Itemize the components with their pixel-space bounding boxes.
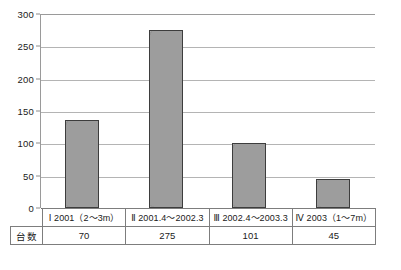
table-row-categories: Ⅰ 2001（2～3m） Ⅱ 2001.4～2002.3 Ⅲ 2002.4～20… xyxy=(11,209,376,227)
bar-category-3 xyxy=(232,143,266,208)
bar-slot-1 xyxy=(40,14,124,208)
bar-slot-2 xyxy=(124,14,208,208)
data-table: Ⅰ 2001（2～3m） Ⅱ 2001.4～2002.3 Ⅲ 2002.4～20… xyxy=(10,208,376,245)
table-row-header-units: 台数 xyxy=(11,227,43,245)
table-category-cell-1: Ⅰ 2001（2～3m） xyxy=(43,209,126,227)
table-category-cell-2: Ⅱ 2001.4～2002.3 xyxy=(126,209,209,227)
y-tick-label-250: 250 xyxy=(18,41,34,52)
bar-slot-4 xyxy=(291,14,375,208)
table-corner-cell xyxy=(11,209,43,227)
bar-slot-3 xyxy=(208,14,292,208)
table-category-cell-3: Ⅲ 2002.4～2003.3 xyxy=(209,209,292,227)
table-category-cell-4: Ⅳ 2003（1～7m） xyxy=(292,209,375,227)
y-tick-label-300: 300 xyxy=(18,9,34,20)
y-axis: 300 250 200 150 100 50 0 xyxy=(0,14,40,208)
bar-chart-figure: 300 250 200 150 100 50 0 xyxy=(0,0,401,270)
y-tick-label-100: 100 xyxy=(18,138,34,149)
y-tick-label-50: 50 xyxy=(23,170,34,181)
table-value-cell-3: 101 xyxy=(209,227,292,245)
table-value-cell-4: 45 xyxy=(292,227,375,245)
bar-category-2 xyxy=(149,30,183,208)
table-value-cell-1: 70 xyxy=(43,227,126,245)
table-value-cell-2: 275 xyxy=(126,227,209,245)
bar-category-1 xyxy=(65,120,99,208)
y-tick-label-200: 200 xyxy=(18,73,34,84)
bar-series xyxy=(40,14,375,208)
figure-caption xyxy=(6,259,395,270)
bar-category-4 xyxy=(316,179,350,208)
y-tick-label-150: 150 xyxy=(18,106,34,117)
table-row-values: 台数 70 275 101 45 xyxy=(11,227,376,245)
